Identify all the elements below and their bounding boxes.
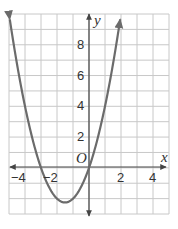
y-axis-label: y [92,12,101,28]
y-tick-label: 2 [77,129,84,144]
parabola-curve [10,19,120,202]
x-axis-label: x [160,149,168,165]
y-tick-label: 4 [77,98,84,113]
y-tick-label: 6 [77,68,84,83]
graph: x y O −4 −2 2 4 2 4 6 8 [0,0,178,229]
origin-label: O [76,150,87,166]
y-tick-label: 8 [77,37,84,52]
x-tick-label: 4 [149,170,156,185]
x-tick-label: 2 [117,170,124,185]
x-tick-label: −2 [43,170,58,185]
x-tick-label: −4 [11,170,26,185]
